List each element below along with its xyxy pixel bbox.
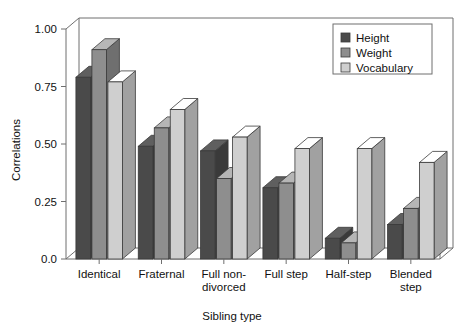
legend-label: Height [356,32,390,44]
bar [295,138,323,259]
x-category-label: Full step [264,268,307,280]
y-axis-tick-labels: 0.00.250.500.751.00 [35,23,57,265]
bar [233,126,261,259]
bar [420,151,448,259]
bar [108,71,136,259]
x-category-label: Identical [78,268,121,280]
bar-group [263,138,323,259]
bar-group [388,151,448,259]
bar-chart: 0.00.250.500.751.00 IdenticalFraternalFu… [0,0,464,334]
x-category-label: Fraternal [138,268,184,280]
y-tick-label: 0.50 [35,138,57,150]
bar-group [138,99,198,260]
bar-group [201,126,261,259]
bar [170,99,198,260]
legend-label: Weight [356,47,392,59]
chart-canvas: 0.00.250.500.751.00 IdenticalFraternalFu… [0,0,464,334]
bar [357,138,385,259]
x-category-label: Blended [390,268,432,280]
y-tick-label: 0.25 [35,196,57,208]
y-tick-label: 1.00 [35,23,57,35]
legend-swatch [341,48,350,57]
x-axis-category-labels: IdenticalFraternalFull non-divorcedFull … [78,268,432,293]
legend-label: Vocabulary [356,62,413,74]
x-axis-title: Sibling type [202,310,261,322]
y-tick-label: 0.0 [41,253,57,265]
bar-group [76,39,136,259]
x-category-label: Half-step [325,268,371,280]
x-category-label: step [400,281,422,293]
x-category-label: Full non- [201,268,246,280]
legend-swatch [341,33,350,42]
y-axis-title: Correlations [10,119,22,181]
x-category-label: divorced [202,281,245,293]
legend-swatch [341,63,350,72]
y-tick-label: 0.75 [35,81,57,93]
y-axis-ticks [61,29,66,259]
chart-legend: HeightWeightVocabulary [333,24,432,74]
bar-group [325,138,385,259]
